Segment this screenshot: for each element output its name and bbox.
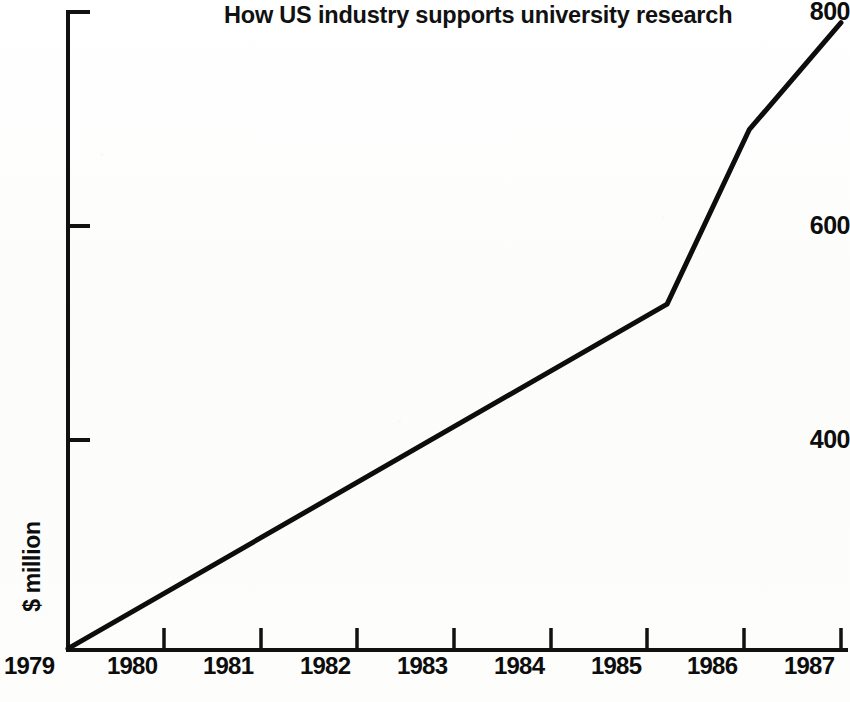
data-line-industry-support: [68, 23, 841, 649]
chart-page: How US industry supports university rese…: [0, 0, 850, 702]
plot-area: [0, 0, 850, 702]
